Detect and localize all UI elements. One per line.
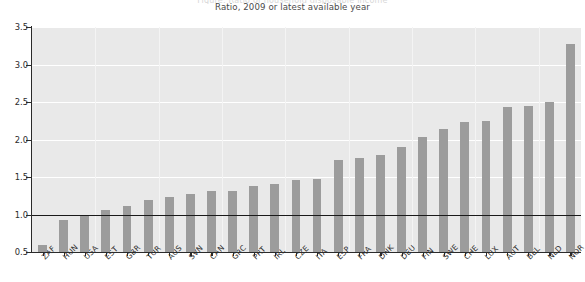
chart-figure: Figure: Ratio of household disposable in… (0, 0, 585, 282)
y-tick-label-2.0: 2.0 (2, 135, 28, 145)
bar-SWE (439, 129, 448, 252)
bar-AUS (165, 197, 174, 253)
plot-area (32, 27, 581, 252)
y-tick-label-1.5: 1.5 (2, 172, 28, 182)
chart-subtitle: Ratio, 2009 or latest available year (0, 2, 585, 12)
y-tick-2.0 (26, 140, 32, 141)
bar-CAN (207, 191, 216, 252)
bar-EST (101, 210, 110, 252)
bar-ESP (334, 160, 343, 252)
bar-HUN (59, 220, 68, 252)
bar-GBR (123, 206, 132, 252)
y-tick-3.5 (26, 27, 32, 28)
bar-DNK (376, 155, 385, 253)
y-axis-tick-labels: 0.51.01.52.02.53.03.5 (0, 0, 28, 282)
gridline-y-3.5 (32, 27, 581, 28)
bar-USA (80, 215, 89, 253)
y-tick-label-3.5: 3.5 (2, 22, 28, 32)
bar-DEU (397, 147, 406, 252)
bar-LUX (482, 121, 491, 252)
gridline-x-6 (159, 27, 160, 252)
gridline-y-2 (32, 140, 581, 141)
y-tick-0.5 (26, 252, 32, 253)
gridline-y-3 (32, 65, 581, 66)
bar-SVN (186, 194, 195, 252)
bar-CZE (292, 180, 301, 252)
gridline-x-3 (95, 27, 96, 252)
bar-TUR (144, 200, 153, 253)
y-tick-3.0 (26, 65, 32, 66)
gridline-x-21 (475, 27, 476, 252)
y-tick-label-3.0: 3.0 (2, 60, 28, 70)
gridline-x-18 (412, 27, 413, 252)
y-tick-label-0.5: 0.5 (2, 247, 28, 257)
gridline-y-2.5 (32, 102, 581, 103)
y-tick-1.5 (26, 177, 32, 178)
source-note (349, 275, 579, 282)
gridline-x-15 (349, 27, 350, 252)
y-tick-label-2.5: 2.5 (2, 97, 28, 107)
bar-BEL (524, 106, 533, 252)
gridline-x-12 (285, 27, 286, 252)
bar-FRA (355, 158, 364, 253)
gridline-x-9 (222, 27, 223, 252)
y-tick-label-1.0: 1.0 (2, 210, 28, 220)
gridline-y-1.5 (32, 177, 581, 178)
gridline-x-24 (539, 27, 540, 252)
bar-NOR (566, 44, 575, 252)
bar-NLD (545, 102, 554, 252)
bar-IRL (270, 184, 279, 252)
y-tick-2.5 (26, 102, 32, 103)
bar-PRT (249, 186, 258, 252)
bar-GRC (228, 191, 237, 253)
bar-AUT (503, 107, 512, 252)
bar-FIN (418, 137, 427, 252)
bar-CHE (460, 122, 469, 252)
bar-ZAF (38, 245, 47, 253)
reference-line (32, 215, 581, 216)
